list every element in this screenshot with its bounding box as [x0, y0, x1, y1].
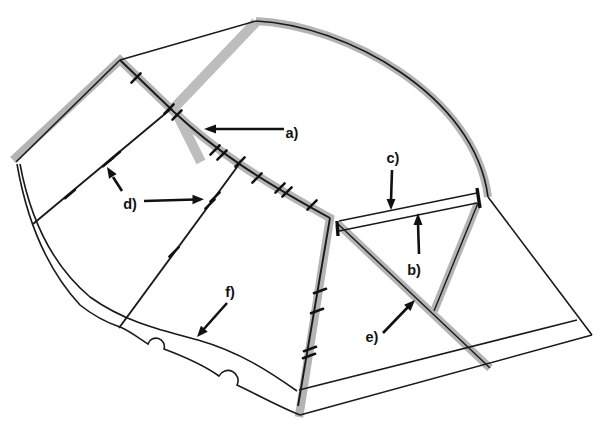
pattern-diagram: a) b) c) d) e) f) — [0, 0, 601, 425]
label-f: f) — [225, 284, 235, 300]
callout-c: c) — [387, 150, 400, 210]
callout-a: a) — [204, 125, 299, 142]
label-e: e) — [366, 329, 379, 345]
middle-panel-seam-line — [119, 163, 240, 328]
arrow-d-up-shaft — [113, 177, 122, 191]
diagonal-seam-right-line — [434, 203, 478, 311]
tick-mark — [169, 247, 178, 256]
right-curved-edge — [256, 21, 488, 197]
arrow-d-up-head — [107, 167, 117, 179]
arrow-b-shaft — [418, 223, 419, 254]
left-ridge-line — [16, 60, 120, 162]
seam-lines — [33, 60, 490, 406]
bottom-right-outer-line — [300, 335, 592, 415]
annotations: a) b) c) d) e) f) — [107, 125, 423, 346]
callout-b: b) — [407, 213, 422, 278]
label-b: b) — [407, 262, 421, 278]
apex-strap-tape — [174, 22, 256, 162]
arrow-a-head — [204, 125, 216, 134]
arrow-c-shaft — [391, 170, 392, 201]
diagonal-seam-e-line — [338, 224, 490, 368]
callout-d: d) — [107, 167, 204, 212]
figure-canvas: a) b) c) d) e) f) — [0, 0, 601, 425]
right-straight-edge — [488, 197, 592, 335]
pocket-left-end-bar — [337, 221, 338, 236]
label-a: a) — [286, 125, 299, 141]
tick-mark — [110, 152, 120, 160]
arrow-d-right-head — [193, 195, 205, 205]
tick-mark — [65, 190, 75, 198]
arrow-d-right-shaft — [144, 200, 195, 202]
callout-e: e) — [366, 300, 415, 345]
label-d: d) — [123, 196, 137, 212]
bottom-inner-hem-line — [20, 164, 297, 391]
seam-a-line — [120, 60, 330, 218]
bottom-right-inner-line — [299, 320, 577, 390]
right-curve-tape — [256, 21, 488, 197]
label-c: c) — [387, 150, 400, 166]
callout-f: f) — [197, 284, 235, 337]
arrow-f-shaft — [203, 303, 227, 330]
arrow-e-shaft — [383, 307, 408, 333]
match-ticks — [65, 73, 326, 358]
arrow-c-head — [387, 199, 396, 210]
